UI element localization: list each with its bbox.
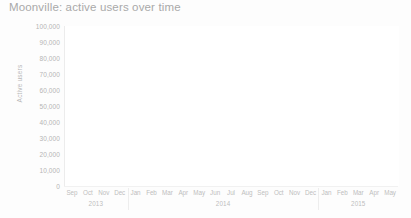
y-axis-tick-label: 10,000 — [2, 167, 60, 174]
x-axis-year-label: 2014 — [128, 197, 319, 213]
y-axis-tick-label: 60,000 — [2, 87, 60, 94]
x-axis-year-label: 2013 — [64, 197, 128, 213]
y-axis-tick-label: 100,000 — [2, 23, 60, 30]
y-axis-tick-label: 80,000 — [2, 55, 60, 62]
y-axis-tick-label: 50,000 — [2, 103, 60, 110]
chart-container: Moonville: active users over time Active… — [0, 0, 411, 218]
y-axis-tick-label: 30,000 — [2, 135, 60, 142]
plot-area — [64, 26, 399, 186]
y-axis-tick-label: 90,000 — [2, 39, 60, 46]
y-axis-tick-label: 40,000 — [2, 119, 60, 126]
x-axis-line — [64, 186, 398, 187]
x-axis-year-label: 2015 — [318, 197, 398, 213]
y-axis-tick-label: 0 — [2, 183, 60, 190]
y-axis-tick-labels: 010,00020,00030,00040,00050,00060,00070,… — [0, 0, 60, 218]
y-axis-tick-label: 20,000 — [2, 151, 60, 158]
y-axis-tick-label: 70,000 — [2, 71, 60, 78]
x-axis-year-groups: 201320142015 — [64, 197, 398, 213]
